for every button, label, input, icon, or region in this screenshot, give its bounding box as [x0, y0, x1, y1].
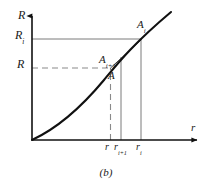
figure-container: R Ri R Ai Ai+1 A r r ri+1 ri (b) — [0, 0, 212, 188]
x-tick-ri1-sub: i+1 — [118, 149, 127, 156]
x-tick-label-ri: ri — [136, 142, 142, 152]
y-tick-label-Ri: Ri — [15, 29, 24, 41]
point-Ai1-base: A — [99, 53, 106, 65]
x-tick-label-r: r — [105, 142, 109, 152]
figure-svg — [0, 0, 212, 188]
figure-caption: (b) — [0, 166, 212, 178]
curve-R-of-r — [32, 12, 171, 140]
x-tick-ri-sub: i — [140, 149, 142, 156]
point-label-A: A — [108, 70, 115, 81]
point-Ai-sub: i — [144, 27, 146, 34]
point-label-Ai1: Ai+1 — [99, 54, 116, 65]
point-label-Ai: Ai — [137, 19, 146, 30]
y-tick-label-R: R — [17, 58, 24, 70]
point-Ai-base: A — [137, 18, 144, 30]
y-axis-label: R — [18, 9, 25, 21]
x-tick-label-ri1: ri+1 — [114, 142, 127, 152]
x-axis-label: r — [191, 122, 195, 133]
